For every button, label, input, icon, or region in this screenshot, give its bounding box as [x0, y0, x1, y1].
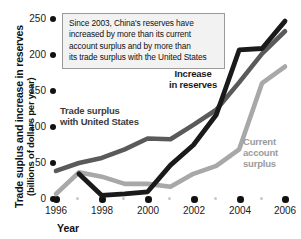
series-label-trade-surplus-line1: Trade surplus [60, 105, 172, 116]
annotation-box: Since 2003, China's reserves have increa… [62, 13, 225, 69]
annotation-line-3: account surplus and by more than [69, 41, 219, 52]
series-label-current-account-surplus: Current account surplus [243, 136, 299, 169]
annotation-line-2: increased by more than its current [69, 29, 219, 40]
series-label-increase-in-reserves: Increase in reserves [152, 68, 234, 90]
series-label-current-account-surplus-line2: account [243, 147, 299, 158]
series-label-trade-surplus: Trade surplus with United States [60, 105, 172, 127]
annotation-line-4: its trade surplus with the United States [69, 52, 219, 63]
series-label-increase-in-reserves-line2: in reserves [152, 79, 234, 90]
series-label-current-account-surplus-line1: Current [243, 136, 299, 147]
chart-figure: Trade suplus and increase in reserves (b… [0, 0, 301, 239]
series-label-trade-surplus-line2: with United States [60, 116, 172, 127]
annotation-line-1: Since 2003, China's reserves have [69, 18, 219, 29]
series-label-current-account-surplus-line3: surplus [243, 158, 299, 169]
series-label-increase-in-reserves-line1: Increase [152, 68, 234, 79]
